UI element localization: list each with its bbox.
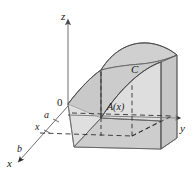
z-axis-label: z bbox=[60, 10, 66, 22]
solid-right-face bbox=[161, 55, 177, 149]
lower-limit-label-a: a bbox=[44, 109, 49, 120]
x-axis-ticks bbox=[44, 119, 59, 133]
solid-body-group bbox=[68, 43, 177, 149]
x-axis-label: x bbox=[6, 157, 12, 169]
solid-cross-section-figure: z y x 0 a x b A(x) C bbox=[0, 0, 196, 175]
slice-variable-label-x: x bbox=[34, 121, 40, 132]
upper-limit-label-b: b bbox=[17, 143, 22, 154]
figure-canvas: z y x 0 a x b A(x) C bbox=[0, 0, 196, 175]
origin-label: 0 bbox=[57, 96, 63, 108]
y-axis-label: y bbox=[179, 122, 185, 134]
surface-c-label: C bbox=[131, 63, 139, 75]
cross-section-area-label: A(x) bbox=[106, 101, 125, 113]
